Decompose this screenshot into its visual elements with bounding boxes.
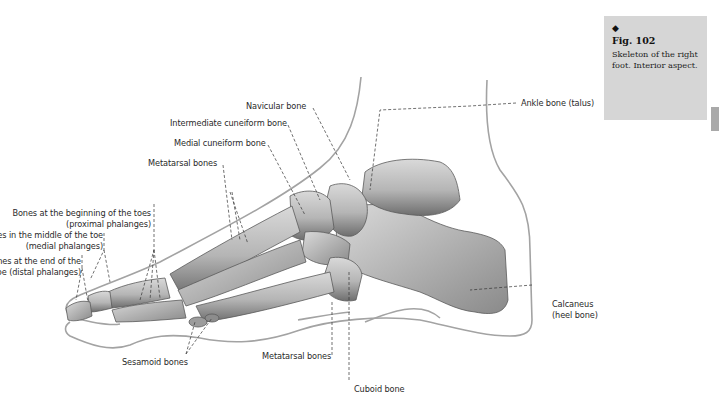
label-medial-cuneiform: Medial cuneiform bone	[174, 138, 266, 149]
label-proximal-phalanges-line2: (proximal phalanges)	[66, 219, 151, 230]
label-intermediate-cuneiform: Intermediate cuneiform bone	[170, 118, 287, 129]
bones	[66, 159, 508, 327]
figure-stage: Navicular bone Intermediate cuneiform bo…	[0, 0, 719, 415]
diamond-bullet-icon: ◆	[612, 23, 619, 33]
label-sesamoid-bones: Sesamoid bones	[122, 357, 188, 368]
label-proximal-phalanges-line1: Bones at the beginning of the toes	[12, 208, 151, 219]
label-calcaneus-line1: Calcaneus	[552, 299, 593, 310]
figure-description: Skeleton of the right foot. Interior asp…	[612, 49, 708, 71]
label-calcaneus-line2: (heel bone)	[552, 310, 598, 321]
page-side-tab	[711, 107, 719, 131]
label-cuboid-bone: Cuboid bone	[354, 384, 405, 395]
label-distal-phalanges-line1: Bones at the end of the	[0, 256, 81, 267]
figure-number: Fig. 102	[612, 35, 655, 46]
label-talus: Ankle bone (talus)	[521, 98, 594, 109]
label-medial-phalanges-line1: Bones in the middle of the toe	[0, 230, 103, 241]
figure-caption-box: ◆ Fig. 102 Skeleton of the right foot. I…	[604, 16, 707, 120]
label-navicular-bone: Navicular bone	[246, 101, 306, 112]
label-metatarsal-bones-bottom: Metatarsal bones	[262, 351, 331, 362]
label-metatarsal-bones-top: Metatarsal bones	[148, 158, 217, 169]
label-medial-phalanges-line2: (medial phalanges)	[26, 241, 103, 252]
label-distal-phalanges-line2: toe (distal phalanges)	[0, 267, 81, 278]
